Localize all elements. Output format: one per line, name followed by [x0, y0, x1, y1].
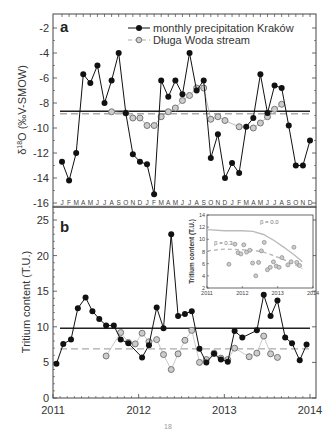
precipitation-marker	[123, 110, 129, 116]
y-tick-label: 20	[37, 250, 49, 262]
legend-stream-marker	[136, 37, 142, 43]
precipitation-marker	[203, 359, 209, 365]
precipitation-marker	[279, 85, 285, 91]
precipitation-marker	[118, 337, 124, 343]
stream-marker	[279, 101, 285, 107]
stream-marker	[130, 115, 136, 121]
y-tick-label: 10	[37, 321, 49, 333]
inset-x-tick-label: 2013	[272, 290, 284, 296]
month-label: M	[244, 199, 249, 206]
precipitation-marker	[274, 297, 280, 303]
month-label: M	[88, 199, 93, 206]
precipitation-marker	[250, 115, 256, 121]
precipitation-marker	[165, 94, 171, 100]
y-axis-label-b: Tritium content (T.U.)	[20, 251, 32, 353]
precipitation-marker	[109, 78, 115, 84]
month-label: A	[166, 199, 171, 206]
stream-marker	[179, 98, 185, 104]
stream-marker	[109, 109, 115, 115]
precipitation-marker	[66, 178, 72, 184]
stream-marker	[272, 106, 278, 112]
stream-marker	[161, 352, 167, 358]
precipitation-marker	[179, 91, 185, 97]
precipitation-marker	[68, 337, 74, 343]
inset-point	[268, 265, 272, 269]
precipitation-marker	[182, 311, 188, 317]
precipitation-marker	[261, 292, 267, 298]
precipitation-marker	[196, 346, 202, 352]
month-label: S	[287, 199, 292, 206]
precipitation-marker	[103, 322, 109, 328]
precipitation-marker	[87, 80, 93, 86]
month-label: A	[194, 199, 199, 206]
x-tick-label: 2014	[298, 404, 322, 416]
stream-line	[112, 88, 282, 128]
inset-point	[242, 243, 246, 247]
precipitation-marker	[53, 361, 59, 367]
precipitation-marker	[229, 160, 235, 166]
month-label: N	[216, 199, 221, 206]
precipitation-marker	[194, 88, 200, 94]
stream-marker	[182, 337, 188, 343]
stream-marker	[165, 109, 171, 115]
inset-y-tick-label: 10	[199, 236, 205, 242]
inset-point	[227, 262, 231, 266]
month-label: J	[266, 199, 269, 206]
precipitation-marker	[146, 342, 152, 348]
stream-marker	[254, 350, 260, 356]
month-label: D	[308, 199, 313, 206]
y-tick-label: -4	[39, 47, 49, 59]
precipitation-marker	[304, 342, 310, 348]
precipitation-marker	[168, 231, 174, 237]
precipitation-marker	[144, 161, 150, 167]
inset-x-tick-label: 2012	[236, 290, 248, 296]
legend-precip-marker	[136, 25, 142, 31]
month-label: J	[60, 199, 63, 206]
stream-marker	[261, 333, 267, 339]
month-label: D	[223, 199, 228, 206]
inset-point	[248, 248, 252, 252]
bottom-caption: 18	[164, 423, 172, 430]
precipitation-marker	[75, 305, 81, 311]
precipitation-marker	[175, 313, 181, 319]
y-tick-label: 0	[43, 392, 49, 404]
month-label: A	[251, 199, 256, 206]
precipitation-marker	[172, 78, 178, 84]
precipitation-marker	[215, 131, 221, 137]
y-tick-label: 5	[43, 356, 49, 368]
month-label: O	[123, 199, 128, 206]
precipitation-marker	[73, 150, 79, 156]
stream-marker	[232, 345, 238, 351]
month-label: J	[273, 199, 276, 206]
inset-x-tick-label: 2014	[307, 290, 319, 296]
inset-y-axis-label: Tritium content (T.U.)	[188, 219, 196, 284]
month-label: F	[237, 199, 241, 206]
y-tick-label: -14	[33, 172, 49, 184]
precipitation-marker	[286, 123, 292, 129]
precipitation-marker	[268, 313, 274, 319]
stream-marker	[132, 341, 138, 347]
stream-marker	[168, 367, 174, 373]
precipitation-marker	[225, 359, 231, 365]
stream-marker	[208, 116, 214, 122]
x-tick-label: 2011	[41, 404, 65, 416]
precipitation-marker	[282, 334, 288, 340]
inset-point	[286, 263, 290, 267]
inset-point	[292, 245, 296, 249]
month-label: O	[208, 199, 213, 206]
stream-marker	[250, 125, 256, 131]
precipitation-marker	[89, 308, 95, 314]
month-label: J	[145, 199, 148, 206]
precipitation-marker	[139, 354, 145, 360]
stream-marker	[103, 353, 109, 359]
x-tick-label: 2013	[212, 404, 236, 416]
annotation-beta-0.3: β = 0.3	[214, 240, 233, 246]
stream-marker	[187, 93, 193, 99]
y-tick-label: -12	[33, 147, 49, 159]
panel-b: 05101520252011201220132014Tritium conten…	[20, 207, 322, 416]
precipitation-marker	[297, 357, 303, 363]
inset-point	[298, 263, 302, 267]
precipitation-marker	[102, 100, 108, 106]
month-label: A	[109, 199, 114, 206]
y-tick-label: -8	[39, 97, 49, 109]
